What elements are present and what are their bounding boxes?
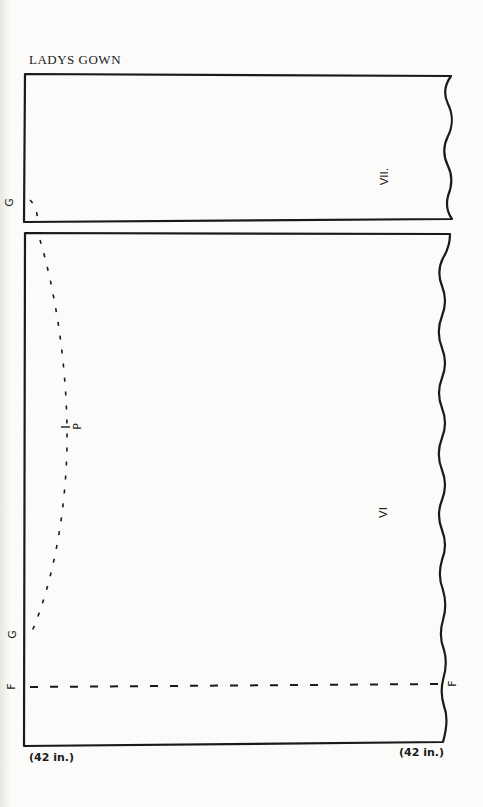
measurement-bottom-left: (42 in.) — [29, 751, 74, 764]
panel-vi-outline — [24, 233, 450, 746]
panel-vi-label: VI — [368, 506, 398, 519]
panel-vii-outline — [24, 74, 452, 222]
dashed-curve-g-p-g — [30, 200, 67, 636]
point-label-f-left: F — [8, 680, 14, 693]
point-label-p: P — [74, 420, 81, 433]
measurement-bottom-right: (42 in.) — [399, 746, 444, 759]
point-label-g-top: G — [5, 196, 14, 209]
point-label-g-bottom: G — [8, 628, 17, 641]
panel-vii-label: VII. — [370, 170, 400, 183]
pattern-diagram — [0, 0, 483, 807]
dashed-line-f-f — [30, 684, 440, 687]
point-label-f-right: F — [449, 677, 455, 690]
